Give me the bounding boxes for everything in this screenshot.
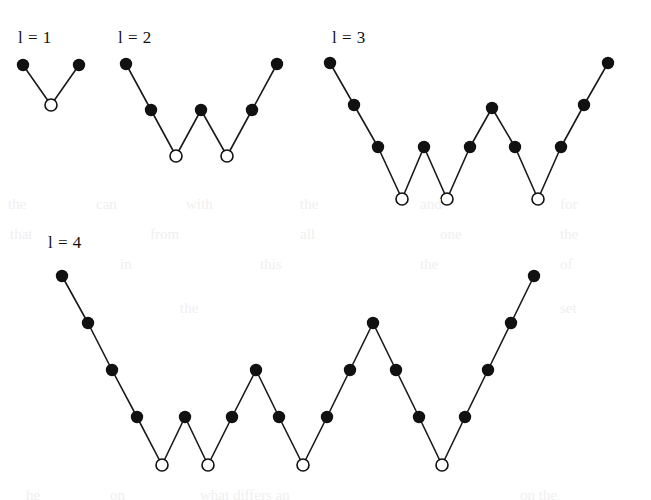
valley-node-hollow [45, 99, 57, 111]
valley-node-hollow [221, 150, 233, 162]
lattice-node-filled [464, 141, 476, 153]
lattice-node-filled [602, 57, 614, 69]
lattice-node-filled [271, 58, 283, 70]
valley-node-hollow [436, 459, 448, 471]
lattice-node-filled [367, 317, 379, 329]
panel-group-l2 [120, 58, 283, 162]
lattice-node-filled [17, 59, 29, 71]
lattice-node-filled [250, 364, 262, 376]
lattice-node-filled [106, 364, 118, 376]
lattice-node-filled [145, 104, 157, 116]
lattice-path-line [330, 63, 608, 199]
valley-node-hollow [202, 459, 214, 471]
lattice-node-filled [486, 102, 498, 114]
lattice-node-filled [56, 270, 68, 282]
lattice-node-filled [324, 57, 336, 69]
lattice-node-filled [372, 141, 384, 153]
lattice-node-filled [578, 99, 590, 111]
lattice-node-filled [348, 99, 360, 111]
lattice-node-filled [344, 364, 356, 376]
valley-node-hollow [396, 193, 408, 205]
lattice-node-filled [459, 411, 471, 423]
lattice-node-filled [120, 58, 132, 70]
panel-group-l1 [17, 59, 85, 111]
lattice-node-filled [505, 317, 517, 329]
lattice-node-filled [195, 104, 207, 116]
valley-node-hollow [441, 193, 453, 205]
lattice-path-line [62, 276, 534, 465]
figure-root: l = 1 l = 2 l = 3 l = 4 thecanwiththeand… [0, 0, 651, 500]
lattice-node-filled [418, 141, 430, 153]
lattice-node-filled [73, 59, 85, 71]
lattice-node-filled [246, 104, 258, 116]
lattice-path-canvas [0, 0, 651, 500]
lattice-node-filled [482, 364, 494, 376]
valley-node-hollow [156, 459, 168, 471]
lattice-node-filled [413, 411, 425, 423]
lattice-node-filled [528, 270, 540, 282]
panel-label-l4: l = 4 [48, 233, 82, 253]
lattice-node-filled [273, 411, 285, 423]
lattice-node-filled [82, 317, 94, 329]
valley-node-hollow [297, 459, 309, 471]
valley-node-hollow [532, 193, 544, 205]
lattice-node-filled [226, 411, 238, 423]
panel-group-l3 [324, 57, 614, 205]
panel-label-l3: l = 3 [332, 28, 366, 48]
lattice-node-filled [321, 411, 333, 423]
lattice-node-filled [179, 411, 191, 423]
lattice-node-filled [555, 141, 567, 153]
panel-group-l4 [56, 270, 540, 471]
lattice-node-filled [131, 411, 143, 423]
valley-node-hollow [170, 150, 182, 162]
panel-label-l1: l = 1 [18, 28, 52, 48]
panel-label-l2: l = 2 [118, 28, 152, 48]
lattice-node-filled [509, 141, 521, 153]
lattice-node-filled [390, 364, 402, 376]
